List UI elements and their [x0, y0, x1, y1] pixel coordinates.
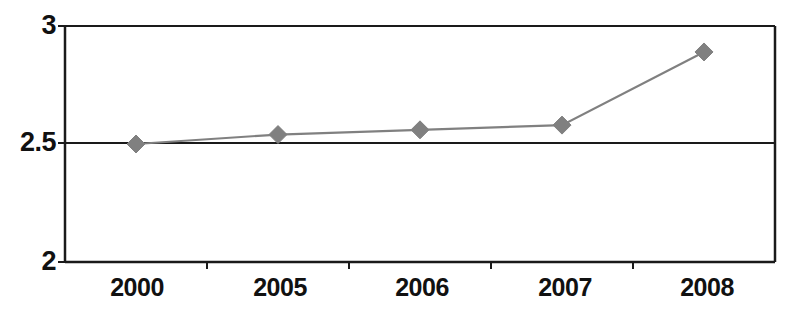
- y-axis-label-2-5: 2.5: [0, 129, 56, 156]
- x-axis-label-2005: 2005: [225, 275, 335, 300]
- y-axis-label-3: 3: [0, 12, 56, 39]
- x-axis-label-2000: 2000: [82, 275, 192, 300]
- x-axis-label-2006: 2006: [367, 275, 477, 300]
- y-axis-label-2: 2: [0, 248, 56, 275]
- chart-plot-area: [0, 0, 798, 319]
- x-axis-label-2007: 2007: [510, 275, 620, 300]
- x-axis-label-2008: 2008: [652, 275, 762, 300]
- line-chart: 3 2.5 2 2000 2005 2006 2007 2008: [0, 0, 798, 319]
